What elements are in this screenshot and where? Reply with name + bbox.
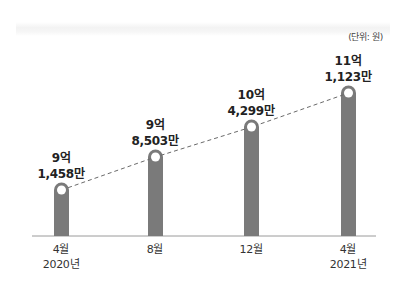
bar-2020-08 xyxy=(148,150,163,237)
x-label-year: 2021년 xyxy=(313,257,383,272)
value-label-line2: 1,123만 xyxy=(308,69,388,85)
bar-2021-04 xyxy=(341,86,356,237)
value-label-line2: 8,503만 xyxy=(115,133,195,149)
value-label-2020-12: 10억 4,299만 xyxy=(211,87,291,119)
marker-2021-04 xyxy=(344,89,353,98)
bar-2020-12 xyxy=(244,120,259,236)
value-label-line2: 4,299만 xyxy=(211,103,291,119)
marker-2020-04 xyxy=(57,186,66,195)
x-label-2021-04: 4월 2021년 xyxy=(313,242,383,272)
value-label-2020-08: 9억 8,503만 xyxy=(115,117,195,149)
marker-2020-12 xyxy=(247,123,256,132)
value-label-line1: 9억 xyxy=(21,150,101,166)
x-label-month: 8월 xyxy=(120,242,190,257)
x-label-2020-12: 12월 xyxy=(216,242,286,257)
markers xyxy=(57,89,353,195)
x-label-2020-04: 4월 2020년 xyxy=(26,242,96,272)
value-label-2021-04: 11억 1,123만 xyxy=(308,53,388,85)
x-label-2020-08: 8월 xyxy=(120,242,190,257)
value-label-2020-04: 9억 1,458만 xyxy=(21,150,101,182)
x-label-month: 12월 xyxy=(216,242,286,257)
x-label-year: 2020년 xyxy=(26,257,96,272)
value-label-line1: 10억 xyxy=(211,87,291,103)
value-label-line1: 9억 xyxy=(115,117,195,133)
x-label-month: 4월 xyxy=(313,242,383,257)
marker-2020-08 xyxy=(151,153,160,162)
value-label-line1: 11억 xyxy=(308,53,388,69)
trend-line xyxy=(62,93,349,190)
value-label-line2: 1,458만 xyxy=(21,166,101,182)
x-label-month: 4월 xyxy=(26,242,96,257)
